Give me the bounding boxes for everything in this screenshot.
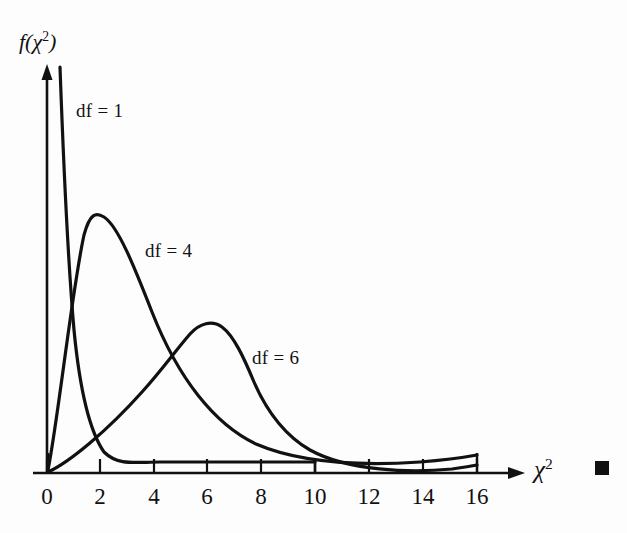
curve-label-df-4: df = 4 [145, 241, 192, 260]
end-of-figure-square-icon [595, 461, 609, 475]
x-tick-label-0: 0 [34, 485, 60, 508]
curve-df-6 [48, 323, 477, 472]
x-tick-label-14: 14 [404, 485, 442, 508]
x-tick-label-10: 10 [296, 485, 334, 508]
x-axis-label-chi: χ [534, 456, 545, 483]
curve-label-df-1: df = 1 [76, 101, 123, 120]
x-tick-label-12: 12 [350, 485, 388, 508]
y-axis-label-f: f( [19, 29, 32, 54]
curve-df-1 [48, 67, 315, 473]
x-axis-label-exponent: 2 [545, 455, 553, 472]
y-axis-label: f(χ2) [19, 30, 56, 53]
x-tick-label-4: 4 [141, 485, 167, 508]
x-tick-label-8: 8 [248, 485, 274, 508]
y-axis-label-chi: χ [32, 29, 42, 54]
x-axis-label: χ2 [534, 456, 553, 482]
chi-square-distribution-figure: f(χ2) df = 1 df = 4 df = 6 0 2 4 6 8 10 … [0, 0, 627, 533]
curve-label-df-6: df = 6 [252, 348, 299, 367]
y-axis [42, 64, 53, 472]
chart-plot-area [0, 0, 627, 533]
curve-df-4 [48, 215, 477, 470]
x-tick-label-6: 6 [194, 485, 220, 508]
y-axis-label-exponent: 2 [42, 29, 49, 44]
y-axis-label-paren: ) [49, 29, 56, 54]
x-tick-label-16: 16 [458, 485, 496, 508]
x-tick-label-2: 2 [87, 485, 113, 508]
